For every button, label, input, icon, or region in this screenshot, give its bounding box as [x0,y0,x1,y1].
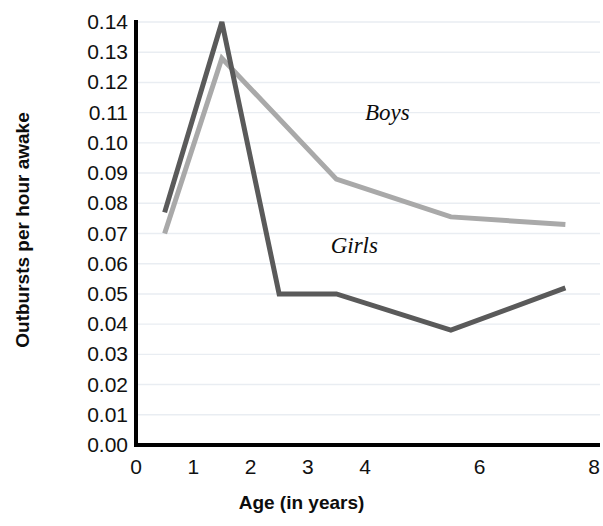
series-line-girls [165,22,566,330]
x-axis-tick-label: 3 [302,456,314,477]
x-axis-tick-label: 6 [474,456,486,477]
x-axis-tick-label: 0 [130,456,142,477]
series-lines-group [165,22,566,330]
x-axis-tick-label: 1 [187,456,199,477]
series-label-boys: Boys [365,100,410,126]
series-label-girls: Girls [331,233,378,259]
plot-area [0,0,603,526]
chart-container: Outbursts per hour awake 0.000.010.020.0… [0,0,603,526]
x-axis-title: Age (in years) [0,492,603,514]
series-line-boys [165,58,566,233]
x-axis-tick-label: 2 [245,456,257,477]
x-axis-tick-label: 8 [588,456,600,477]
x-axis-tick-label: 4 [359,456,371,477]
